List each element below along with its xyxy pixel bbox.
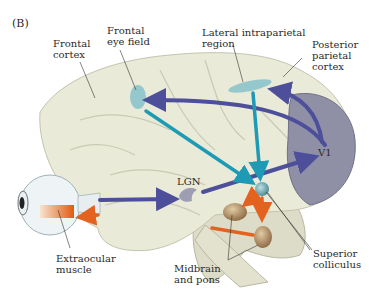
label-extraocular-muscle: Extraocular muscle — [56, 253, 116, 275]
superior-colliculus — [255, 182, 269, 196]
frontal-eye-field-region — [130, 85, 146, 109]
label-lgn: LGN — [177, 176, 200, 187]
label-superior-colliculus: Superior colliculus — [313, 248, 361, 270]
midbrain-nucleus — [223, 203, 247, 221]
label-frontal-cortex: Frontal cortex — [53, 38, 90, 60]
pons-nucleus — [254, 226, 272, 248]
label-v1: V1 — [318, 147, 332, 158]
label-midbrain-and-pons: Midbrain and pons — [174, 263, 221, 285]
panel-label: (B) — [12, 18, 29, 29]
label-frontal-eye-field: Frontal eye field — [107, 25, 150, 47]
label-lateral-intraparietal-region: Lateral intraparietal region — [202, 27, 306, 49]
label-posterior-parietal-cortex: Posterior parietal cortex — [312, 39, 358, 72]
